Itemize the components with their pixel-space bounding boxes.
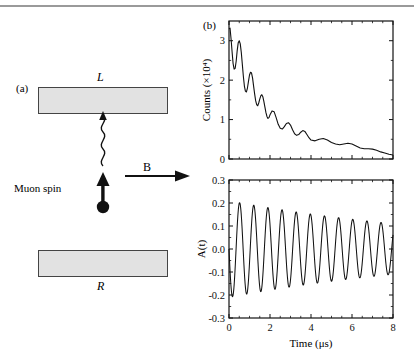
svg-text:4: 4 xyxy=(308,322,314,333)
svg-text:0.0: 0.0 xyxy=(212,244,225,255)
asymmetry-y-axis-label: A(t) xyxy=(196,240,208,259)
asymmetry-plot-frame xyxy=(229,180,393,318)
svg-text:2: 2 xyxy=(267,322,272,333)
field-B-arrowhead xyxy=(175,171,190,182)
figure-root: (a) L R B Muon spin (b) 0123 Counts (×10… xyxy=(0,0,414,358)
asymmetry-plot-xtick-labels: 02468 xyxy=(226,322,395,333)
svg-text:6: 6 xyxy=(349,322,354,333)
svg-text:0.1: 0.1 xyxy=(212,221,225,232)
svg-text:0.2: 0.2 xyxy=(212,198,225,209)
asymmetry-plot-ticks xyxy=(229,180,393,318)
asymmetry-plot-ytick-labels: -0.3-0.2-0.10.00.10.20.3 xyxy=(208,175,225,324)
counts-data-curve xyxy=(229,28,393,155)
counts-plot-ytick-labels: 0123 xyxy=(220,35,225,164)
positron-wavy-line xyxy=(101,116,104,166)
svg-text:-0.1: -0.1 xyxy=(208,267,225,278)
svg-text:0.3: 0.3 xyxy=(212,175,225,186)
svg-text:0: 0 xyxy=(220,154,225,165)
panel-a-vector-art xyxy=(0,0,200,358)
muon-dot xyxy=(97,201,109,213)
asymmetry-data-curve xyxy=(229,203,393,297)
svg-text:-0.3: -0.3 xyxy=(208,313,225,324)
svg-text:3: 3 xyxy=(220,35,225,46)
svg-text:2: 2 xyxy=(220,75,225,86)
counts-y-axis-label: Counts (×10⁴) xyxy=(200,59,213,122)
svg-text:-0.2: -0.2 xyxy=(208,290,225,301)
asymmetry-x-axis-label: Time (μs) xyxy=(289,337,332,350)
svg-text:1: 1 xyxy=(220,114,225,125)
svg-text:0: 0 xyxy=(226,322,231,333)
positron-arrowhead xyxy=(99,111,107,120)
muon-spin-arrowhead xyxy=(97,172,110,186)
asymmetry-plot: -0.3-0.2-0.10.00.10.20.3 02468 A(t) Time… xyxy=(196,175,396,350)
panel-b-charts: 0123 Counts (×10⁴) -0.3-0.2-0.10.00.10.2… xyxy=(196,10,414,358)
svg-text:8: 8 xyxy=(390,322,395,333)
counts-plot: 0123 Counts (×10⁴) xyxy=(200,21,393,165)
